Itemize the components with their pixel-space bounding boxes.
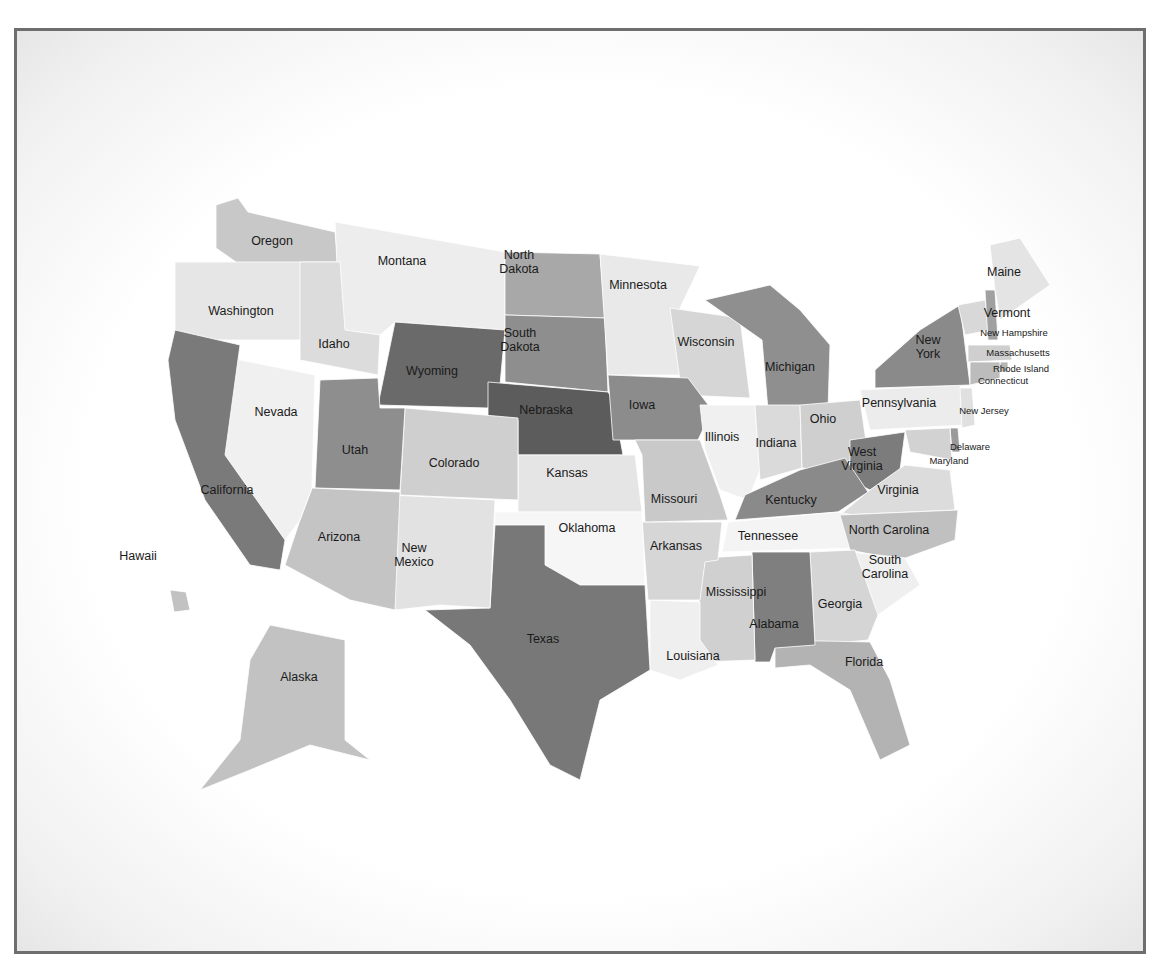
- state-label-mississippi: Mississippi: [706, 585, 766, 599]
- state-kansas[interactable]: [518, 455, 642, 512]
- state-label-kansas: Kansas: [546, 466, 588, 480]
- state-montana[interactable]: [335, 222, 505, 335]
- state-label-hawaii: Hawaii: [119, 549, 157, 563]
- state-label-arkansas: Arkansas: [650, 539, 702, 553]
- state-label-oklahoma: Oklahoma: [559, 521, 616, 535]
- state-label-missouri: Missouri: [651, 492, 698, 506]
- state-label-montana: Montana: [378, 254, 427, 268]
- state-label-nevada: Nevada: [254, 405, 297, 419]
- state-label-oregon: Oregon: [251, 234, 293, 248]
- state-label-new-york: NewYork: [915, 333, 941, 361]
- state-hawaii[interactable]: [170, 590, 190, 612]
- state-label-nebraska: Nebraska: [519, 403, 573, 417]
- state-label-connecticut: Connecticut: [978, 375, 1029, 386]
- state-alaska[interactable]: [200, 625, 370, 790]
- state-label-washington: Washington: [208, 304, 274, 318]
- state-label-pennsylvania: Pennsylvania: [862, 396, 936, 410]
- state-label-minnesota: Minnesota: [609, 278, 667, 292]
- state-label-vermont: Vermont: [984, 306, 1031, 320]
- state-label-alaska: Alaska: [280, 670, 318, 684]
- state-florida[interactable]: [775, 640, 910, 760]
- state-label-utah: Utah: [342, 443, 368, 457]
- state-label-virginia: Virginia: [877, 483, 919, 497]
- state-label-colorado: Colorado: [429, 456, 480, 470]
- state-label-north-carolina: North Carolina: [849, 523, 930, 537]
- state-label-iowa: Iowa: [629, 398, 655, 412]
- state-label-delaware: Delaware: [950, 441, 990, 452]
- state-label-georgia: Georgia: [818, 597, 863, 611]
- state-label-north-dakota: NorthDakota: [499, 248, 539, 276]
- state-label-new-hampshire: New Hampshire: [980, 327, 1048, 338]
- state-label-indiana: Indiana: [755, 436, 796, 450]
- state-label-louisiana: Louisiana: [666, 649, 720, 663]
- state-label-alabama: Alabama: [749, 617, 798, 631]
- state-label-new-jersey: New Jersey: [959, 405, 1009, 416]
- state-label-tennessee: Tennessee: [738, 529, 799, 543]
- state-label-arizona: Arizona: [318, 530, 360, 544]
- state-oregon[interactable]: [216, 198, 338, 262]
- state-label-texas: Texas: [527, 632, 560, 646]
- state-label-maine: Maine: [987, 265, 1021, 279]
- state-label-idaho: Idaho: [318, 337, 349, 351]
- state-label-rhode-island: Rhode Island: [993, 363, 1049, 374]
- state-label-south-dakota: SouthDakota: [500, 326, 540, 354]
- state-label-wisconsin: Wisconsin: [678, 335, 735, 349]
- state-label-wyoming: Wyoming: [406, 364, 458, 378]
- state-colorado[interactable]: [400, 408, 518, 500]
- state-label-massachusetts: Massachusetts: [986, 347, 1050, 358]
- us-states-map[interactable]: WashingtonOregonMontanaIdahoWyomingNorth…: [0, 0, 1165, 968]
- state-label-maryland: Maryland: [929, 455, 968, 466]
- state-label-florida: Florida: [845, 655, 883, 669]
- state-label-south-carolina: SouthCarolina: [862, 553, 909, 581]
- state-label-kentucky: Kentucky: [765, 493, 817, 507]
- state-label-michigan: Michigan: [765, 360, 815, 374]
- state-label-illinois: Illinois: [705, 430, 740, 444]
- state-alabama[interactable]: [752, 552, 815, 662]
- state-label-ohio: Ohio: [810, 412, 836, 426]
- state-label-california: California: [201, 483, 254, 497]
